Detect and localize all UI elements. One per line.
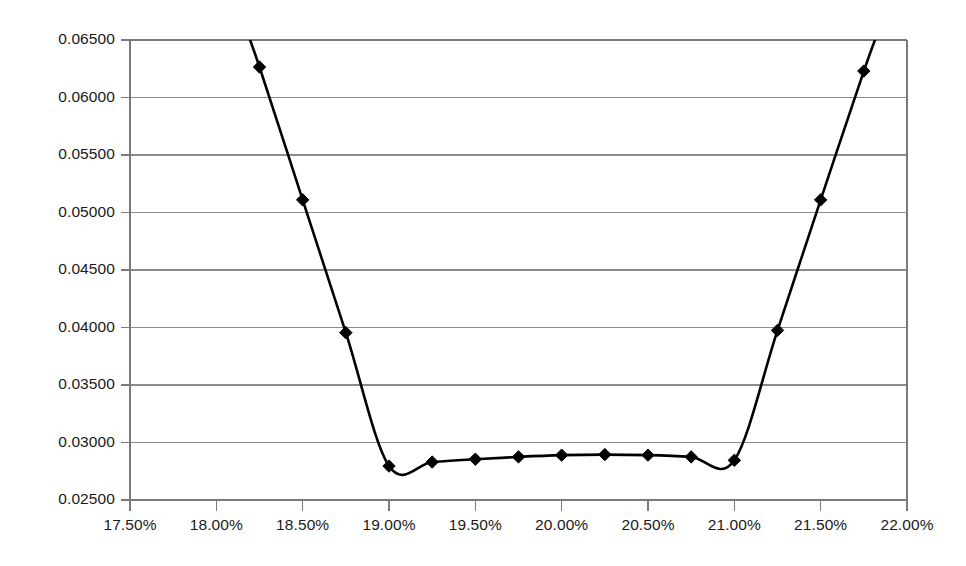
chart-container: 0.065000.060000.055000.050000.045000.040… (0, 0, 966, 566)
data-point-marker (426, 456, 438, 468)
y-axis-tick-label: 0.04000 (58, 318, 115, 336)
data-point-marker (253, 61, 265, 73)
y-axis-tick-label: 0.06000 (58, 88, 115, 106)
data-point-marker (858, 65, 870, 77)
y-axis-tick-label: 0.05500 (58, 145, 115, 163)
y-axis-tick-label: 0.03000 (58, 433, 115, 451)
data-point-marker (642, 449, 654, 461)
data-point-marker (814, 194, 826, 206)
y-axis-tick-label: 0.03500 (58, 375, 115, 393)
data-point-marker (599, 448, 611, 460)
data-series-line (245, 26, 881, 475)
data-point-marker (771, 324, 783, 336)
data-point-marker (340, 326, 352, 338)
line-chart-plot (0, 0, 966, 566)
data-point-marker (555, 449, 567, 461)
x-axis-tick-label: 22.00% (847, 516, 966, 534)
data-point-marker (512, 451, 524, 463)
y-axis-tick-label: 0.02500 (58, 490, 115, 508)
y-axis-tick-label: 0.06500 (58, 30, 115, 48)
data-point-marker (296, 194, 308, 206)
y-axis-tick-label: 0.04500 (58, 260, 115, 278)
data-point-marker (469, 453, 481, 465)
y-axis-tick-label: 0.05000 (58, 203, 115, 221)
data-point-marker (685, 451, 697, 463)
